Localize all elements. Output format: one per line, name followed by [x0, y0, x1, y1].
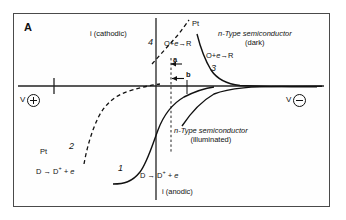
reaction-label-curve-4: O+e→R: [164, 40, 191, 48]
rxn2-arrow: →: [44, 167, 52, 176]
axis-label-anodic: i (anodic): [162, 188, 193, 196]
reaction-label-curve-3: O+e→R: [206, 52, 233, 60]
semiconductor-dark-line1: n-Type semiconductor: [218, 29, 292, 38]
rxn3-left: O+: [206, 51, 216, 60]
minus-circle-icon: [293, 94, 306, 107]
reaction-label-curve-1: D → D+ + e: [140, 170, 178, 179]
rxn2-tail: + e: [64, 167, 75, 176]
label-semiconductor-dark: n-Type semiconductor (dark): [218, 29, 292, 48]
annotation-label-b: b: [186, 71, 191, 79]
rxn1-sup: +: [163, 169, 166, 175]
rxn4-arrow: →: [178, 39, 186, 48]
label-pt-bottom: Pt: [40, 148, 47, 156]
rxn2-D: D: [36, 167, 41, 176]
curve-number-3: 3: [211, 64, 216, 73]
curve-number-4: 4: [148, 38, 153, 47]
reaction-label-curve-2: D → D+ + e: [36, 166, 74, 175]
curve-2-platinum-anodic: [84, 84, 160, 164]
voltage-negative-text: V: [286, 96, 291, 104]
semiconductor-illum-line1: n-Type semiconductor: [174, 126, 248, 135]
curve-number-1: 1: [118, 164, 123, 173]
rxn3-arrow: →: [220, 51, 228, 60]
semiconductor-dark-line2: (dark): [245, 38, 265, 47]
rxn3-right: R: [228, 51, 233, 60]
label-semiconductor-illuminated: n-Type semiconductor (illuminated): [174, 126, 248, 145]
rxn4-left: O+: [164, 39, 174, 48]
annotation-arrow-b: [172, 76, 184, 81]
figure-root: A i (cathodic) i (anodic) V V Pt 4 O+e→R…: [0, 0, 346, 220]
rxn1-arrow: →: [148, 171, 156, 180]
semiconductor-illum-line2: (illuminated): [190, 135, 231, 144]
rxn4-right: R: [186, 39, 191, 48]
voltage-positive-text: V: [20, 96, 25, 104]
axis-label-voltage-negative: V: [286, 94, 306, 107]
axis-label-cathodic: i (cathodic): [90, 30, 127, 38]
label-pt-top: Pt: [192, 20, 199, 28]
annotation-label-a: a: [173, 56, 177, 64]
rxn1-tail: + e: [168, 171, 179, 180]
rxn1-D: D: [140, 171, 145, 180]
figure-frame: A i (cathodic) i (anodic) V V Pt 4 O+e→R…: [13, 13, 330, 207]
plus-circle-icon: [27, 94, 40, 107]
rxn2-sup: +: [59, 165, 62, 171]
panel-letter: A: [24, 22, 32, 34]
curve-number-2: 2: [69, 142, 74, 151]
axis-label-voltage-positive: V: [20, 94, 40, 107]
